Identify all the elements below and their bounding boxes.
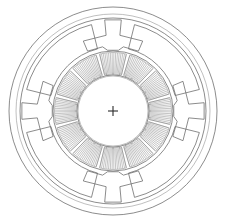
- drawing-canvas: Stator Cross Section T-shaped mounting b…: [0, 0, 228, 224]
- canvas-background: [0, 0, 228, 224]
- stator-cross-section-drawing: [0, 0, 228, 224]
